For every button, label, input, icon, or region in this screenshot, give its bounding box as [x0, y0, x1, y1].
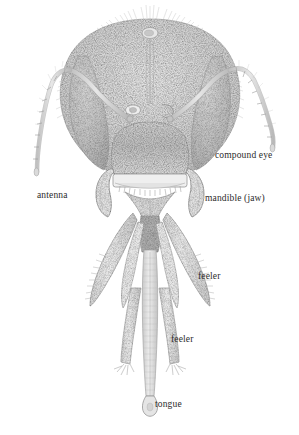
label-compound-eye: compound eye — [215, 150, 272, 161]
tone-wash — [0, 0, 299, 435]
bee-head-illustration — [0, 0, 299, 435]
bee-head-figure: antenna compound eye mandible (jaw) feel… — [0, 0, 299, 435]
label-tongue: tongue — [155, 399, 182, 410]
label-antenna: antenna — [37, 190, 68, 201]
label-feeler-lower: feeler — [171, 334, 194, 345]
label-feeler-upper: feeler — [198, 271, 221, 282]
label-mandible-jaw: mandible (jaw) — [205, 193, 265, 204]
